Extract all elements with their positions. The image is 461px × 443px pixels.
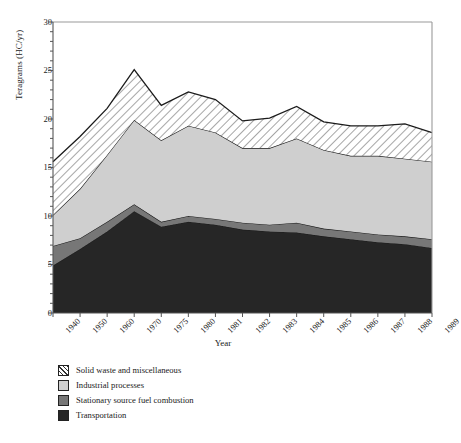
legend-item[interactable]: Transportation: [58, 408, 398, 423]
x-tick-label: 1940: [63, 316, 82, 335]
x-tick-label: 1982: [252, 316, 271, 335]
x-tick-label: 1985: [334, 316, 353, 335]
x-tick-label: 1987: [388, 316, 407, 335]
x-tick-label: 1988: [415, 316, 434, 335]
x-tick-label: 1975: [171, 316, 190, 335]
x-tick-label: 1950: [90, 316, 109, 335]
x-tick-label: 1960: [117, 316, 136, 335]
legend-item-label: Transportation: [76, 411, 126, 420]
legend-item[interactable]: Industrial processes: [58, 378, 398, 393]
x-tick-label: 1986: [361, 316, 380, 335]
legend-item-label: Solid waste and miscellaneous: [76, 366, 181, 375]
legend-swatch-icon: [58, 395, 69, 406]
legend-item-label: Stationary source fuel combustion: [76, 396, 194, 405]
x-tick-label: 1983: [280, 316, 299, 335]
legend-swatch-icon: [58, 380, 69, 391]
legend-item[interactable]: Solid waste and miscellaneous: [58, 363, 398, 378]
chart-plot-area: Teragrams (HC/yr) 051015202530 194019501…: [0, 0, 446, 360]
legend-item[interactable]: Stationary source fuel combustion: [58, 393, 398, 408]
x-axis-title: Year: [0, 338, 446, 348]
x-tick-label: 1981: [225, 316, 244, 335]
x-tick-label: 1980: [198, 316, 217, 335]
legend-swatch-icon: [58, 365, 69, 376]
x-tick-label: 1984: [307, 316, 326, 335]
x-tick-label: 1970: [144, 316, 163, 335]
chart-legend: Solid waste and miscellaneousIndustrial …: [58, 363, 398, 423]
legend-swatch-icon: [58, 410, 69, 421]
x-tick-label: 1989: [442, 316, 461, 335]
chart-svg: [0, 0, 446, 360]
legend-item-label: Industrial processes: [76, 381, 144, 390]
x-axis-tick-labels: 1940195019601970197519801981198219831984…: [0, 314, 446, 360]
